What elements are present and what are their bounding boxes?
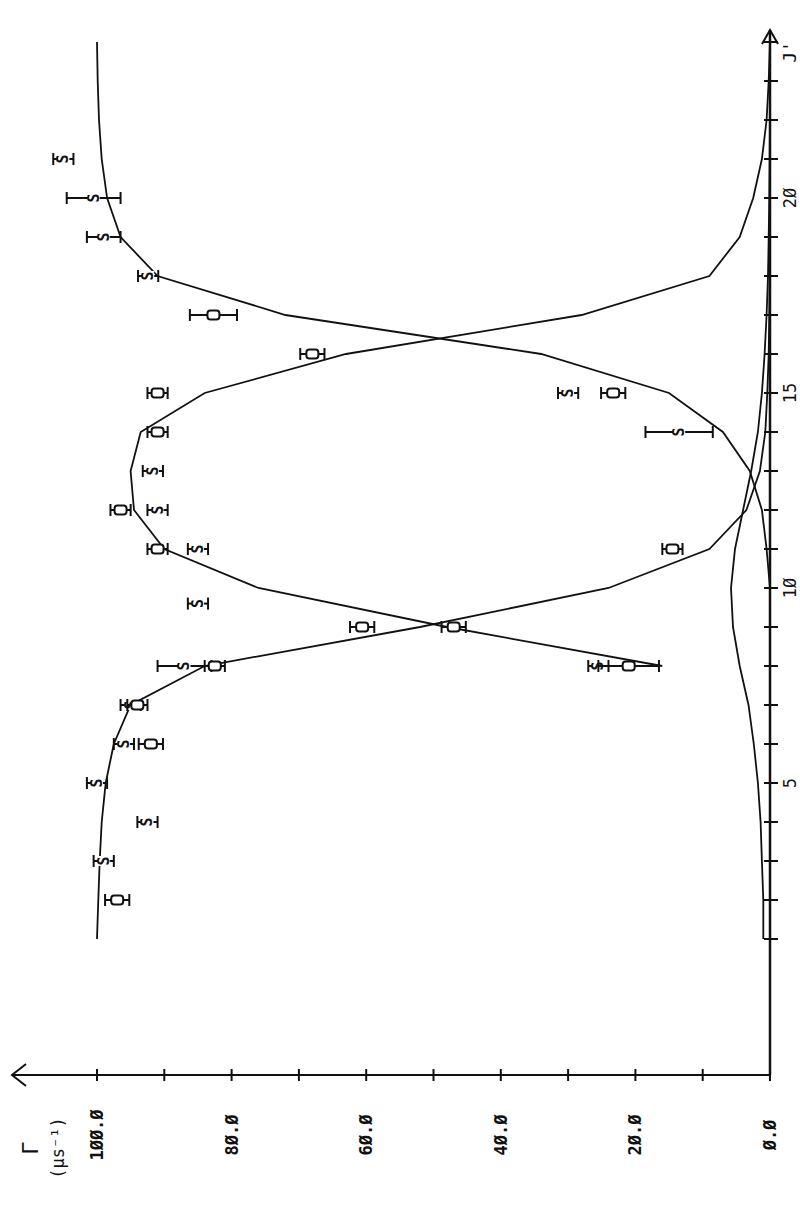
marker-s: S [147, 504, 167, 516]
marker-o [442, 621, 466, 633]
j-tick-label: 5 [780, 778, 800, 788]
marker-o [350, 621, 374, 633]
marker-o [147, 387, 167, 399]
svg-text:S: S [54, 154, 72, 163]
axis-labels: Γ (μs⁻¹) J' [18, 41, 800, 1179]
marker-o [110, 504, 130, 516]
x-axis-symbol: J' [779, 41, 800, 63]
marker-o [139, 738, 163, 750]
marker-o [662, 543, 682, 555]
y-axis-symbol: Γ [18, 1141, 43, 1154]
marker-s: S [53, 153, 73, 165]
marker-o [205, 660, 225, 672]
svg-text:S: S [88, 778, 106, 787]
gamma-tick-label: 2Ø.Ø [625, 1114, 645, 1156]
svg-text:S: S [138, 817, 156, 826]
axes: Ø.Ø2Ø.Ø4Ø.Ø6Ø.Ø8Ø.Ø1ØØ.Ø51Ø152Ø [12, 30, 800, 1161]
svg-text:S: S [85, 193, 103, 202]
svg-text:S: S [559, 388, 577, 397]
marker-s: S [143, 465, 163, 477]
gamma-tick-label: 1ØØ.Ø [87, 1109, 107, 1161]
svg-text:S: S [175, 661, 193, 670]
chart-canvas: Ø.Ø2Ø.Ø4Ø.Ø6Ø.Ø8Ø.Ø1ØØ.Ø51Ø152Ø SSSSSSSS… [0, 0, 800, 1211]
svg-text:S: S [149, 505, 167, 514]
j-tick-label: 2Ø [780, 188, 800, 208]
marker-s: S [138, 270, 158, 282]
marker-o [300, 348, 324, 360]
curve-0 [97, 42, 770, 939]
svg-text:S: S [115, 739, 133, 748]
svg-text:S: S [144, 466, 162, 475]
marker-s: S [67, 192, 121, 204]
marker-s: S [137, 816, 157, 828]
curves [97, 42, 770, 939]
marker-o [105, 894, 129, 906]
svg-text:S: S [189, 599, 207, 608]
curve-3 [731, 42, 770, 939]
marker-o [147, 543, 167, 555]
curve-1 [131, 42, 770, 666]
marker-s: S [158, 660, 212, 672]
y-axis-unit: (μs⁻¹) [48, 1117, 68, 1178]
marker-s: S [114, 738, 134, 750]
marker-o [601, 387, 625, 399]
gamma-tick-label: 6Ø.Ø [356, 1114, 376, 1156]
marker-s: S [87, 777, 107, 789]
marker-o [147, 426, 167, 438]
marker-s: S [558, 387, 578, 399]
marker-s: S [188, 543, 208, 555]
marker-s: S [87, 231, 121, 243]
svg-text:S: S [670, 427, 688, 436]
gamma-tick-label: 4Ø.Ø [491, 1114, 511, 1156]
svg-text:S: S [139, 271, 157, 280]
marker-s: S [188, 598, 208, 610]
svg-text:S: S [189, 544, 207, 553]
curve-2 [97, 42, 770, 939]
svg-text:S: S [95, 232, 113, 241]
j-tick-label: 15 [780, 383, 800, 403]
marker-o [190, 309, 237, 321]
marker-s: S [645, 426, 712, 438]
gamma-tick-label: Ø.Ø [760, 1119, 780, 1151]
gamma-tick-label: 8Ø.Ø [222, 1114, 242, 1156]
j-tick-label: 1Ø [780, 578, 800, 598]
svg-text:S: S [95, 856, 113, 865]
data-markers: SSSSSSSSSSSSSSSSS [53, 153, 713, 906]
marker-s: S [94, 855, 114, 867]
marker-o [598, 660, 659, 672]
